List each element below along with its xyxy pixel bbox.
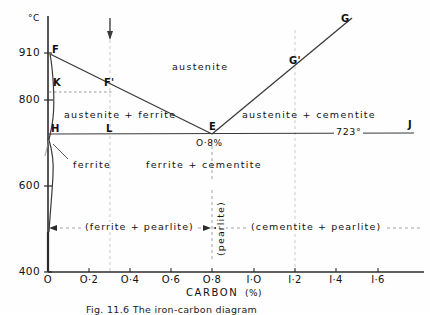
band-label-ferrite-pearlite: (ferrite + pearlite)	[82, 222, 197, 232]
axis-lines	[48, 16, 424, 272]
region-label-austenite-cementite: austenite + cementite	[242, 110, 376, 120]
point-label-L: L	[106, 124, 113, 134]
x-tick-0: O	[38, 275, 58, 285]
point-label-F-prime: F'	[104, 78, 114, 88]
y-tick-910: 910	[6, 47, 40, 58]
y-axis-unit-label: °C	[28, 14, 40, 23]
x-tick-1-4: I·4	[321, 275, 351, 285]
x-axis-unit-label: (%)	[245, 289, 262, 298]
y-tick-800: 800	[6, 94, 40, 105]
region-label-austenite-ferrite: austenite + ferrite	[64, 110, 176, 120]
point-label-H: H	[51, 124, 60, 134]
region-label-austenite: austenite	[172, 62, 228, 72]
x-tick-1-6: I·6	[363, 275, 393, 285]
guide-line-0-3	[107, 18, 113, 272]
point-label-F: F	[52, 45, 59, 55]
y-tick-400: 400	[6, 266, 40, 277]
eutectoid-temperature-label: 723°	[334, 127, 363, 137]
x-tick-0-4: O·4	[115, 275, 145, 285]
point-label-K: K	[53, 78, 61, 88]
x-tick-0-6: O·6	[156, 275, 186, 285]
x-tick-0-2: O·2	[74, 275, 104, 285]
x-tick-1-0: I·O	[239, 275, 269, 285]
y-tick-600: 600	[6, 180, 40, 191]
point-label-E: E	[209, 122, 216, 132]
figure-caption: Fig. 11.6 The iron-carbon diagram	[86, 305, 257, 315]
x-tick-1-2: I·2	[280, 275, 310, 285]
x-tick-marks	[48, 266, 378, 272]
point-label-G: G	[341, 14, 349, 24]
band-label-cementite-pearlite: (cementite + pearlite)	[248, 222, 384, 232]
point-label-J: J	[408, 120, 412, 130]
region-label-ferrite-cementite: ferrite + cementite	[146, 160, 262, 170]
x-tick-0-8: O·8	[197, 275, 227, 285]
region-label-ferrite: ferrite	[73, 160, 111, 170]
x-axis-title: CARBON	[186, 288, 238, 298]
band-label-pearlite: (pearlite)	[216, 199, 226, 258]
point-label-G-prime: G'	[289, 56, 301, 66]
eutectoid-composition-label: O·8%	[196, 139, 223, 148]
ferrite-leader-line	[53, 144, 68, 159]
